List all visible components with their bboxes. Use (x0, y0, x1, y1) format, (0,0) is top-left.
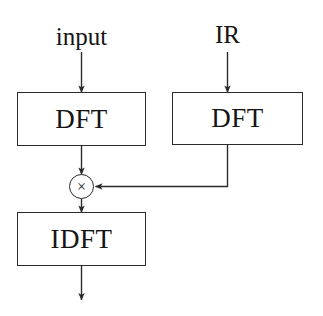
multiply-icon: × (77, 179, 86, 195)
node-dft-right[interactable]: DFT (172, 92, 303, 145)
ir-source-label: IR (215, 22, 240, 47)
block-diagram: input IR DFT DFT × IDFT (0, 0, 323, 316)
node-dft-left[interactable]: DFT (17, 92, 146, 146)
input-source-label: input (56, 24, 107, 49)
node-idft-label: IDFT (51, 226, 113, 253)
node-idft[interactable]: IDFT (17, 212, 146, 266)
node-dft-right-label: DFT (211, 105, 264, 132)
diagram-connectors (0, 0, 323, 316)
edge-dft-right-to-multiply (96, 145, 228, 187)
node-dft-left-label: DFT (55, 106, 108, 133)
